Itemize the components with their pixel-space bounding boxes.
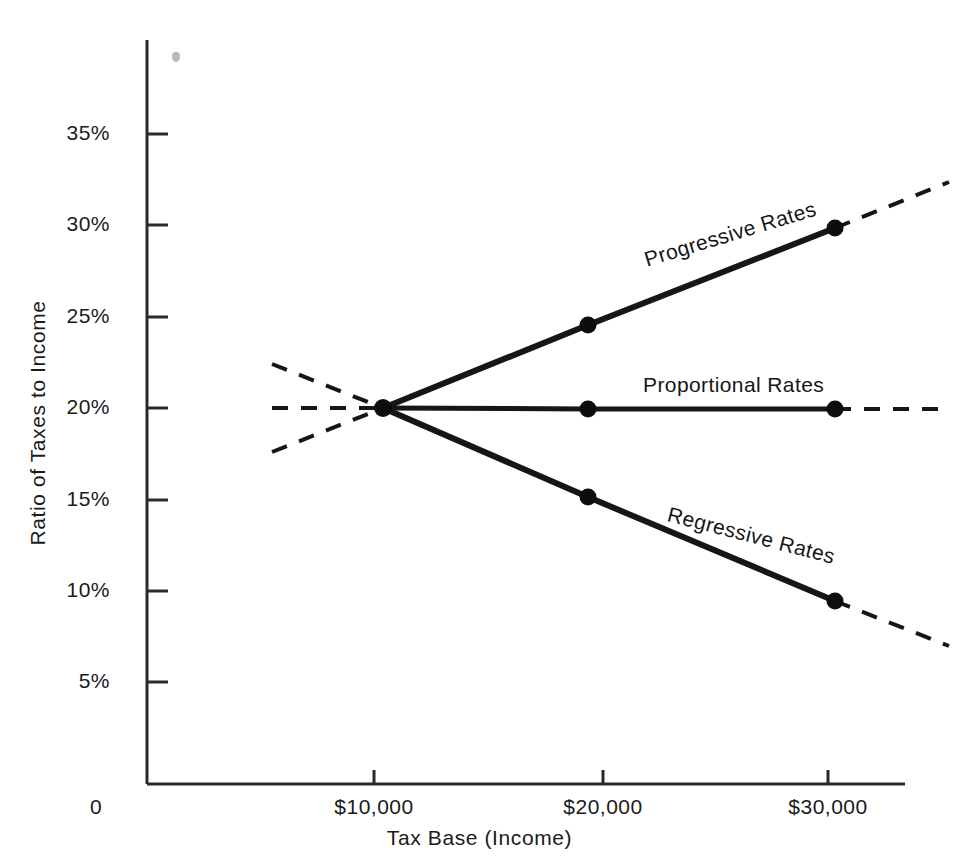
data-point-convergence [374, 399, 392, 417]
x-tick-label-10000: $10,000 [294, 795, 454, 819]
y-tick-label-25: 25% [0, 304, 110, 328]
dashed-extensions-right [835, 182, 949, 646]
chart-plot-area [0, 0, 959, 862]
data-point-regressive-30000 [827, 593, 844, 610]
data-point-progressive-30000 [827, 220, 844, 237]
data-point-regressive-20000 [580, 489, 597, 506]
axis-lines [147, 40, 905, 784]
dashed-extensions-left [272, 364, 383, 452]
y-axis-title-wrapper: Ratio of Taxes to Income [26, 263, 50, 583]
x-tick-label-30000: $30,000 [748, 795, 908, 819]
y-tick-label-10: 10% [0, 578, 110, 602]
data-point-progressive-20000 [580, 317, 597, 334]
y-tick-label-15: 15% [0, 487, 110, 511]
x-tick-label-0: 0 [16, 795, 176, 819]
regressive-rates-line [383, 408, 835, 601]
regressive-extension-left [272, 364, 383, 408]
y-axis-title: Ratio of Taxes to Income [26, 300, 49, 545]
regressive-extension-right [835, 601, 949, 646]
y-tick-label-20: 20% [0, 395, 110, 419]
chart-figure: 35% 30% 25% 20% 15% 10% 5% 0 $10,000 $20… [0, 0, 959, 862]
data-point-proportional-20000 [580, 401, 597, 418]
series-label-proportional: Proportional Rates [643, 373, 824, 397]
y-tick-label-30: 30% [0, 212, 110, 236]
y-tick-label-35: 35% [0, 121, 110, 145]
y-tick-label-5: 5% [0, 669, 110, 693]
progressive-extension-left [272, 408, 383, 452]
data-point-proportional-30000 [827, 401, 844, 418]
x-tick-label-20000: $20,000 [523, 795, 683, 819]
y-axis-ticks [147, 134, 168, 682]
x-axis-title-wrapper: Tax Base (Income) [0, 826, 959, 850]
proportional-rates-line [383, 408, 835, 409]
x-axis-ticks [374, 770, 828, 784]
progressive-extension-right [835, 182, 949, 228]
x-axis-title: Tax Base (Income) [387, 826, 572, 849]
